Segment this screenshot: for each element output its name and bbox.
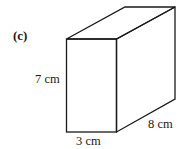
part-label: (c) (13, 29, 27, 42)
width-label: 3 cm (76, 135, 101, 148)
depth-label: 8 cm (148, 118, 173, 131)
height-label: 7 cm (35, 73, 60, 86)
front-face (67, 39, 117, 132)
top-face (67, 7, 176, 39)
side-face (117, 7, 176, 132)
